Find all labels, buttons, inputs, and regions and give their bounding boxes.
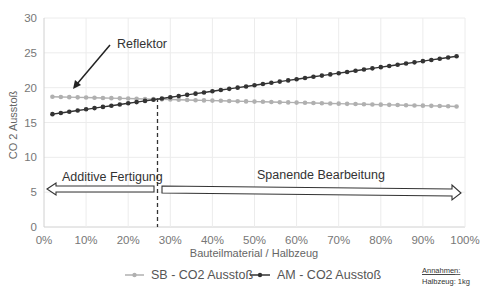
data-point-marker bbox=[362, 102, 367, 107]
data-point-marker bbox=[185, 93, 190, 98]
sb-marker-icon bbox=[132, 273, 136, 277]
data-point-marker bbox=[277, 100, 282, 105]
data-point-marker bbox=[244, 99, 249, 104]
data-point-marker bbox=[429, 104, 434, 109]
assumptions-title: Annahmen: bbox=[422, 266, 460, 275]
data-point-marker bbox=[84, 95, 89, 100]
data-point-marker bbox=[336, 71, 341, 76]
data-point-marker bbox=[227, 99, 232, 104]
left-block-arrow-icon bbox=[47, 183, 154, 195]
reflector-arrow-icon bbox=[73, 45, 110, 89]
data-point-marker bbox=[379, 102, 384, 107]
data-point-marker bbox=[235, 85, 240, 90]
data-point-marker bbox=[387, 64, 392, 69]
data-point-marker bbox=[370, 102, 375, 107]
y-axis-title: CO 2 Ausstoß bbox=[7, 90, 19, 159]
data-point-marker bbox=[437, 104, 442, 109]
data-point-marker bbox=[412, 103, 417, 108]
x-tick-label: 10% bbox=[75, 234, 98, 246]
data-point-marker bbox=[50, 112, 55, 117]
y-tick-label: 25 bbox=[24, 47, 37, 59]
data-point-marker bbox=[92, 106, 97, 111]
data-point-marker bbox=[345, 70, 350, 75]
data-point-marker bbox=[168, 95, 173, 100]
y-tick-label: 5 bbox=[31, 186, 37, 198]
data-point-marker bbox=[67, 109, 72, 114]
data-point-marker bbox=[151, 97, 156, 102]
y-tick-label: 20 bbox=[24, 82, 37, 94]
data-point-marker bbox=[193, 98, 198, 103]
data-point-marker bbox=[421, 59, 426, 64]
data-point-marker bbox=[362, 67, 367, 72]
data-point-marker bbox=[252, 99, 257, 104]
data-point-marker bbox=[421, 103, 426, 108]
data-point-marker bbox=[202, 90, 207, 95]
data-point-marker bbox=[252, 83, 257, 88]
assumptions-halbzeug: Halbzeug: 1kg bbox=[422, 277, 470, 286]
data-point-marker bbox=[219, 88, 224, 93]
data-point-marker bbox=[328, 101, 333, 106]
y-tick-label: 0 bbox=[31, 221, 37, 233]
spanende-bearbeitung-label: Spanende Bearbeitung bbox=[257, 168, 385, 182]
data-point-marker bbox=[412, 60, 417, 65]
data-point-marker bbox=[303, 76, 308, 81]
x-tick-label: 60% bbox=[285, 234, 308, 246]
data-point-marker bbox=[353, 102, 358, 107]
data-point-marker bbox=[75, 95, 80, 100]
data-point-marker bbox=[67, 95, 72, 100]
data-point-marker bbox=[261, 100, 266, 105]
data-point-marker bbox=[437, 56, 442, 61]
data-point-marker bbox=[50, 94, 55, 99]
data-point-marker bbox=[345, 102, 350, 107]
data-point-marker bbox=[109, 103, 114, 108]
additive-fertigung-label: Additive Fertigung bbox=[62, 170, 163, 184]
data-point-marker bbox=[143, 99, 148, 104]
reflector-label: Reflektor bbox=[117, 37, 167, 51]
data-point-marker bbox=[336, 101, 341, 106]
x-tick-label: 70% bbox=[327, 234, 350, 246]
data-point-marker bbox=[395, 62, 400, 67]
data-point-marker bbox=[387, 103, 392, 108]
right-block-arrow-icon bbox=[162, 185, 461, 200]
data-point-marker bbox=[320, 101, 325, 106]
data-point-marker bbox=[244, 84, 249, 89]
data-point-marker bbox=[379, 65, 384, 70]
data-point-marker bbox=[193, 91, 198, 96]
data-point-marker bbox=[446, 104, 451, 109]
x-axis-ticks: 0%10%20%30%40%50%60%70%80%90%100% bbox=[36, 234, 480, 246]
data-point-marker bbox=[176, 94, 181, 99]
data-point-marker bbox=[269, 100, 274, 105]
data-point-marker bbox=[404, 103, 409, 108]
data-point-marker bbox=[429, 58, 434, 63]
data-point-marker bbox=[117, 102, 122, 107]
data-point-marker bbox=[84, 107, 89, 112]
data-point-marker bbox=[210, 98, 215, 103]
x-tick-label: 30% bbox=[159, 234, 182, 246]
data-point-marker bbox=[370, 66, 375, 71]
data-point-marker bbox=[126, 101, 131, 106]
y-axis-ticks: 051015202530 bbox=[24, 12, 37, 233]
legend: SB - CO2 Ausstoß AM - CO2 Ausstoß bbox=[125, 268, 382, 282]
y-tick-label: 15 bbox=[24, 117, 37, 129]
co2-chart: 051015202530 0%10%20%30%40%50%60%70%80%9… bbox=[0, 0, 485, 298]
data-point-marker bbox=[269, 81, 274, 86]
data-point-marker bbox=[311, 74, 316, 79]
data-point-marker bbox=[286, 100, 291, 105]
data-point-marker bbox=[404, 61, 409, 66]
x-axis-title: Bauteilmaterial / Halbzeug bbox=[190, 247, 318, 259]
data-point-marker bbox=[109, 96, 114, 101]
data-point-marker bbox=[353, 68, 358, 73]
legend-label-am: AM - CO2 Ausstoß bbox=[277, 268, 382, 282]
data-point-marker bbox=[311, 101, 316, 106]
x-tick-label: 0% bbox=[36, 234, 53, 246]
data-point-marker bbox=[320, 73, 325, 78]
data-point-marker bbox=[446, 55, 451, 60]
data-point-marker bbox=[75, 108, 80, 113]
data-point-marker bbox=[202, 98, 207, 103]
legend-label-sb: SB - CO2 Ausstoß bbox=[151, 268, 253, 282]
am-marker-icon bbox=[258, 273, 262, 277]
x-tick-label: 40% bbox=[201, 234, 224, 246]
data-point-marker bbox=[328, 72, 333, 77]
data-point-marker bbox=[395, 103, 400, 108]
data-point-marker bbox=[227, 87, 232, 92]
